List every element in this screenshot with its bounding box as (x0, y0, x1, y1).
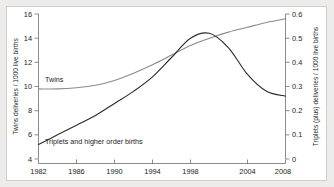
x-tick-label-1986: 1986 (68, 167, 84, 176)
series-annotation-triplets: Triplets and higher order births (45, 137, 143, 146)
chart-figure: 16 14 12 10 8 6 4 Twins deliveries / 100… (0, 0, 334, 187)
left-tick-label-8: 8 (28, 106, 32, 115)
left-tick-label-14: 14 (24, 34, 32, 43)
right-tick-label-0: 0 (292, 155, 296, 164)
x-tick-label-1990: 1990 (106, 167, 122, 176)
plot-series-group (39, 19, 286, 145)
right-axis: 0.6 0.5 0.4 0.3 0.2 0.1 0 Triplets (plus… (286, 10, 321, 164)
left-axis: 16 14 12 10 8 6 4 Twins deliveries / 100… (12, 10, 39, 164)
x-tick-label-2004: 2004 (239, 167, 255, 176)
left-axis-title: Twins deliveries / 1000 live births (12, 38, 19, 135)
left-tick-label-12: 12 (24, 58, 32, 67)
x-tick-label-2008: 2008 (275, 167, 291, 176)
right-tick-label-02: 0.2 (292, 106, 302, 115)
series-line-triplets (39, 33, 286, 145)
right-tick-label-03: 0.3 (292, 82, 302, 91)
x-tick-label-1994: 1994 (144, 167, 160, 176)
left-tick-label-6: 6 (28, 130, 32, 139)
chart-panel: 16 14 12 10 8 6 4 Twins deliveries / 100… (6, 6, 327, 181)
left-tick-label-16: 16 (24, 10, 32, 19)
left-tick-label-10: 10 (24, 82, 32, 91)
right-axis-title: Triplets (plus) deliveries / 1000 live b… (312, 26, 320, 146)
series-line-twins (39, 19, 286, 89)
right-tick-label-04: 0.4 (292, 58, 302, 67)
x-tick-label-1998: 1998 (182, 167, 198, 176)
right-tick-label-06: 0.6 (292, 10, 302, 19)
left-tick-label-4: 4 (28, 155, 32, 164)
x-axis: 1982 1986 1990 1994 1998 2004 2008 (30, 160, 291, 177)
dual-axis-line-chart: 16 14 12 10 8 6 4 Twins deliveries / 100… (7, 7, 327, 180)
x-tick-label-1982: 1982 (30, 167, 46, 176)
right-tick-label-05: 0.5 (292, 34, 302, 43)
series-annotation-twins: Twins (45, 75, 64, 84)
right-tick-label-01: 0.1 (292, 130, 302, 139)
